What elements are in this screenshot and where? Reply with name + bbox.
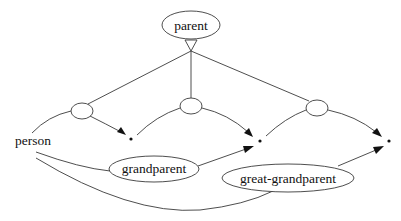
great-grandparent-label: great-grandparent xyxy=(240,171,336,186)
parent-label: parent xyxy=(174,18,208,33)
triangle-icon xyxy=(185,40,197,51)
edge-join1-dot1 xyxy=(90,116,121,132)
parent-node: parent xyxy=(162,11,220,39)
arrowhead-icon xyxy=(373,146,384,154)
endpoint-dot-1 xyxy=(129,137,132,140)
edge-grandparent-dot2 xyxy=(198,149,246,166)
arrowhead-icon xyxy=(372,128,382,137)
edge-dot2-join3 xyxy=(266,110,306,136)
join-node-3 xyxy=(306,100,328,116)
edge-great-grandparent-dot3 xyxy=(338,150,376,166)
edge-join3-dot3 xyxy=(328,110,376,132)
edge-parent-join1 xyxy=(88,51,191,104)
join-node-2 xyxy=(180,98,202,114)
arrowhead-icon xyxy=(243,146,254,153)
arrowhead-icon xyxy=(117,127,126,135)
edge-person-grandparent xyxy=(36,152,110,171)
grandparent-label: grandparent xyxy=(122,161,187,176)
endpoint-dot-2 xyxy=(258,139,261,142)
grandparent-node: grandparent xyxy=(109,156,199,182)
person-label: person xyxy=(15,133,51,148)
join-node-1 xyxy=(71,103,93,119)
edge-person-join1 xyxy=(32,111,71,133)
great-grandparent-node: great-grandparent xyxy=(222,164,354,192)
endpoint-dot-3 xyxy=(387,139,390,142)
edge-dot1-join2 xyxy=(137,108,180,135)
edge-parent-join3 xyxy=(191,51,309,101)
edge-join2-dot2 xyxy=(202,108,248,132)
relationship-diagram: parent person grandparent great-grandpar… xyxy=(0,0,401,221)
